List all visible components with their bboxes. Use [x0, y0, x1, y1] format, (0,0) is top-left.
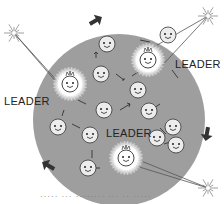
face-icon — [93, 66, 109, 82]
face-icon — [82, 127, 98, 143]
face-icon — [80, 160, 96, 176]
leadership-diagram: LEADER LEADER LEADER ····· ··· ········ … — [0, 0, 224, 204]
face-icon — [168, 137, 184, 153]
leader-label-top: LEADER — [175, 58, 221, 70]
face-icon — [96, 102, 112, 118]
leader-label-bottom: LEADER — [106, 127, 152, 139]
face-icon — [99, 36, 115, 52]
leader-left-icon — [53, 67, 87, 101]
arrow-top-icon — [87, 12, 105, 29]
leader-bottom-icon — [109, 141, 143, 175]
caption-text: ····· ··· ········ ··· ·· ····· — [40, 192, 190, 201]
face-icon — [160, 27, 176, 43]
leader-top-icon — [131, 43, 165, 77]
leader-label-left: LEADER — [4, 95, 50, 107]
star-bottom-right-icon — [198, 179, 218, 196]
face-icon — [165, 119, 181, 135]
star-top-left-icon — [4, 24, 24, 41]
face-icon — [141, 103, 157, 119]
face-icon — [50, 119, 66, 135]
star-top-right-icon — [198, 7, 218, 24]
face-icon — [130, 82, 146, 98]
